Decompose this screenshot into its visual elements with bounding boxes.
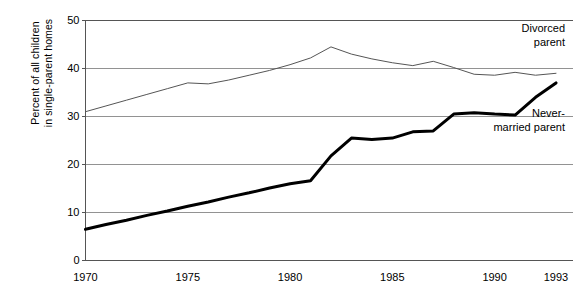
series-label-never-line-1: Never- (493, 107, 565, 121)
y-tick-label: 10 (52, 207, 80, 218)
series-label-divorced-line-1: Divorced (522, 22, 565, 36)
y-tick-label: 0 (52, 255, 80, 266)
x-tick-label: 1980 (270, 272, 310, 283)
series-label-divorced-line-2: parent (522, 36, 565, 50)
chart-container: Percent of all children in single-parent… (0, 0, 573, 299)
series-label-never-married-parent: Never- married parent (493, 107, 565, 134)
x-tick-label: 1990 (475, 272, 515, 283)
series-label-never-line-2: married parent (493, 121, 565, 135)
series-label-divorced-parent: Divorced parent (522, 22, 565, 49)
plot-area (0, 0, 573, 299)
x-tick-label: 1993 (536, 272, 573, 283)
series-line-never-married-parent (86, 83, 557, 229)
y-tick-label: 30 (52, 111, 80, 122)
series-line-divorced-parent (86, 47, 557, 112)
y-tick-label: 40 (52, 63, 80, 74)
x-tick-label: 1970 (66, 272, 106, 283)
x-tick-label: 1975 (168, 272, 208, 283)
y-tick-label: 20 (52, 159, 80, 170)
y-axis-title-line-1: Percent of all children (29, 0, 42, 163)
y-tick-label: 50 (52, 15, 80, 26)
x-tick-label: 1985 (372, 272, 412, 283)
